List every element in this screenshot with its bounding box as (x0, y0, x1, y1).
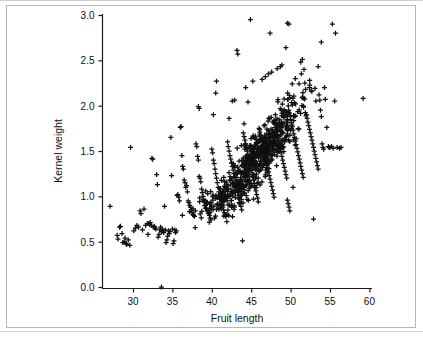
scatter-marker (138, 211, 143, 216)
scatter-marker (269, 184, 274, 189)
scatter-marker (115, 233, 120, 238)
x-tick-label: 40 (206, 296, 218, 307)
scatter-marker (213, 167, 218, 172)
scatter-marker (313, 156, 318, 161)
scatter-marker (285, 198, 290, 203)
scatter-marker (314, 159, 319, 164)
scatter-marker (164, 237, 169, 242)
scatter-marker (300, 171, 305, 176)
scatter-marker (154, 172, 159, 177)
scatter-marker (254, 192, 259, 197)
scatter-marker (232, 98, 237, 103)
scatter-marker (243, 85, 248, 90)
scatter-marker (146, 232, 151, 237)
scatter-marker (268, 177, 273, 182)
scatter-marker (293, 76, 298, 81)
y-tick-label: 3.0 (81, 10, 95, 21)
y-tick-label: 1.0 (81, 191, 95, 202)
y-tick-label: 2.5 (81, 55, 95, 66)
scatter-marker (213, 171, 218, 176)
scatter-marker (242, 134, 247, 139)
scatter-marker (282, 96, 287, 101)
x-axis-title: Fruit length (211, 312, 264, 324)
scatter-marker (235, 52, 240, 57)
scatter-marker (230, 214, 235, 219)
x-tick-label: 35 (167, 296, 179, 307)
scatter-marker (312, 86, 317, 91)
axis-lines (102, 14, 372, 289)
scatter-marker (248, 17, 253, 22)
scatter-marker (287, 208, 292, 213)
scatter-marker (318, 108, 323, 113)
y-tick-label: 0.5 (81, 237, 95, 248)
scatter-marker (213, 91, 218, 96)
scatter-marker (298, 160, 303, 165)
scatter-marker (185, 189, 190, 194)
scatter-marker (214, 79, 219, 84)
scatter-marker (221, 175, 226, 180)
scatter-marker (214, 176, 219, 181)
scatter-marker (211, 112, 216, 117)
scatter-marker (268, 180, 273, 185)
scatter-marker (282, 165, 287, 170)
scatter-marker (242, 121, 247, 126)
scatter-marker (227, 149, 232, 154)
scatter-marker (246, 100, 251, 105)
scatter-marker (324, 125, 329, 130)
scatter-marker (280, 158, 285, 163)
x-tick-label: 30 (127, 296, 139, 307)
scatter-marker (275, 99, 280, 104)
scatter-marker (307, 83, 312, 88)
scatter-marker (194, 144, 199, 149)
scatter-marker (251, 197, 256, 202)
scatter-marker (240, 238, 245, 243)
scatter-marker (284, 176, 289, 181)
x-tick-label: 55 (324, 296, 336, 307)
scatter-marker (179, 153, 184, 158)
scatter-marker (299, 168, 304, 173)
y-axis-title: Kernel weight (52, 119, 64, 183)
scatter-marker (296, 126, 301, 131)
scatter-marker (128, 145, 133, 150)
scatter-marker (332, 99, 337, 104)
scatter-marker (198, 179, 203, 184)
figure-root: 0.00.51.01.52.02.53.0 30354045505560 Fru… (0, 0, 423, 339)
scatter-marker (172, 238, 177, 243)
scatter-marker (308, 130, 313, 135)
x-tick-label: 45 (246, 296, 258, 307)
scatter-marker (268, 31, 273, 36)
scatter-marker (150, 157, 155, 162)
scatter-marker (177, 198, 182, 203)
scatter-marker (287, 205, 292, 210)
scatter-marker (291, 185, 296, 190)
scatter-marker (319, 114, 324, 119)
scatter-marker (297, 157, 302, 162)
scatter-marker (215, 180, 220, 185)
scatter-marker (199, 215, 204, 220)
scatter-marker (322, 85, 327, 90)
scatter-marker (302, 81, 307, 86)
scatter-marker (239, 207, 244, 212)
x-tick-label: 50 (285, 296, 297, 307)
scatter-marker (300, 90, 305, 95)
scatter-marker (301, 175, 306, 180)
scatter-marker (162, 204, 167, 209)
scatter-marker (227, 153, 232, 158)
scatter-marker (228, 157, 233, 162)
scatter-marker (299, 71, 304, 76)
scatter-marker (286, 201, 291, 206)
scatter-marker (157, 232, 162, 237)
scatter-marker (209, 147, 214, 152)
scatter-marker (279, 154, 284, 159)
scatter-marker (286, 103, 291, 108)
scatter-marker (361, 96, 366, 101)
scatter-marker (169, 173, 174, 178)
scatter-marker (297, 81, 302, 86)
scatter-marker (296, 153, 301, 158)
scatter-marker (284, 120, 289, 125)
scatter-marker (260, 77, 265, 82)
scatter-marker (156, 235, 161, 240)
scatter-marker (178, 125, 183, 130)
scatter-marker (281, 161, 286, 166)
scatter-marker (309, 134, 314, 139)
